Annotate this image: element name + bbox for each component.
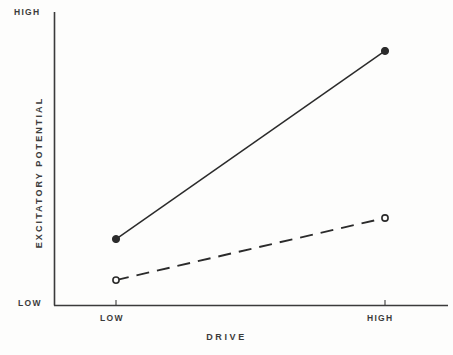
data-point-filled-circle-high	[381, 47, 388, 54]
y-axis-top-label: HIGH	[14, 8, 40, 17]
x-axis-tick-label-low: LOW	[100, 314, 124, 323]
x-axis-tick-label-high: HIGH	[367, 314, 393, 323]
series-dashed-open-line	[116, 218, 385, 280]
series-solid-filled-line	[116, 51, 385, 239]
chart-figure: HIGH LOW LOW HIGH EXCITATORY POTENTIAL D…	[0, 0, 453, 355]
x-axis-title: DRIVE	[0, 333, 453, 342]
plot-area	[0, 0, 453, 355]
data-point-filled-circle-low	[112, 235, 119, 242]
y-axis-title: EXCITATORY POTENTIAL	[35, 78, 44, 268]
data-point-open-circle-high	[382, 215, 388, 221]
y-axis-bottom-label: LOW	[18, 299, 42, 308]
data-point-open-circle-low	[113, 277, 119, 283]
